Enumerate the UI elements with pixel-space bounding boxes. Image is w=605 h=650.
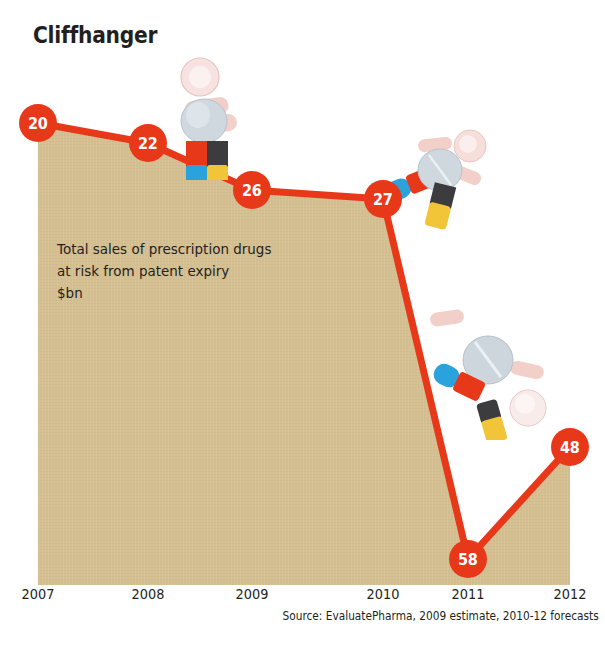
data-point-label: 58 <box>458 549 477 568</box>
pills-icon-top <box>160 55 255 180</box>
data-point-2008: 22 <box>129 124 167 162</box>
data-point-2007: 20 <box>19 104 57 142</box>
annotation-line-1: Total sales of prescription drugs <box>57 238 290 260</box>
x-tick-2011: 2011 <box>452 586 485 602</box>
data-point-label: 22 <box>138 133 157 152</box>
data-point-2012: 48 <box>551 428 589 466</box>
x-tick-2009: 2009 <box>236 586 269 602</box>
x-tick-2010: 2010 <box>367 586 400 602</box>
x-tick-2007: 2007 <box>22 586 55 602</box>
data-point-label: 27 <box>373 189 392 208</box>
chart-title: Cliffhanger <box>33 22 157 48</box>
pills-icon-bottom <box>418 305 553 440</box>
annotation-line-3: $bn <box>57 282 290 304</box>
x-tick-2012: 2012 <box>554 586 587 602</box>
data-point-label: 26 <box>242 180 261 199</box>
data-point-2010: 27 <box>364 180 402 218</box>
data-point-label: 20 <box>28 113 47 132</box>
x-tick-2008: 2008 <box>132 586 165 602</box>
data-point-2011: 58 <box>449 540 487 578</box>
data-point-2009: 26 <box>233 171 271 209</box>
chart-figure: Cliffhanger Total sales of prescription … <box>0 0 605 650</box>
annotation-line-2: at risk from patent expiry <box>57 260 290 282</box>
chart-annotation: Total sales of prescription drugs at ris… <box>57 238 290 304</box>
data-point-label: 48 <box>560 437 579 456</box>
source-note: Source: EvaluatePharma, 2009 estimate, 2… <box>283 609 599 623</box>
pills-icon-right <box>382 128 502 233</box>
